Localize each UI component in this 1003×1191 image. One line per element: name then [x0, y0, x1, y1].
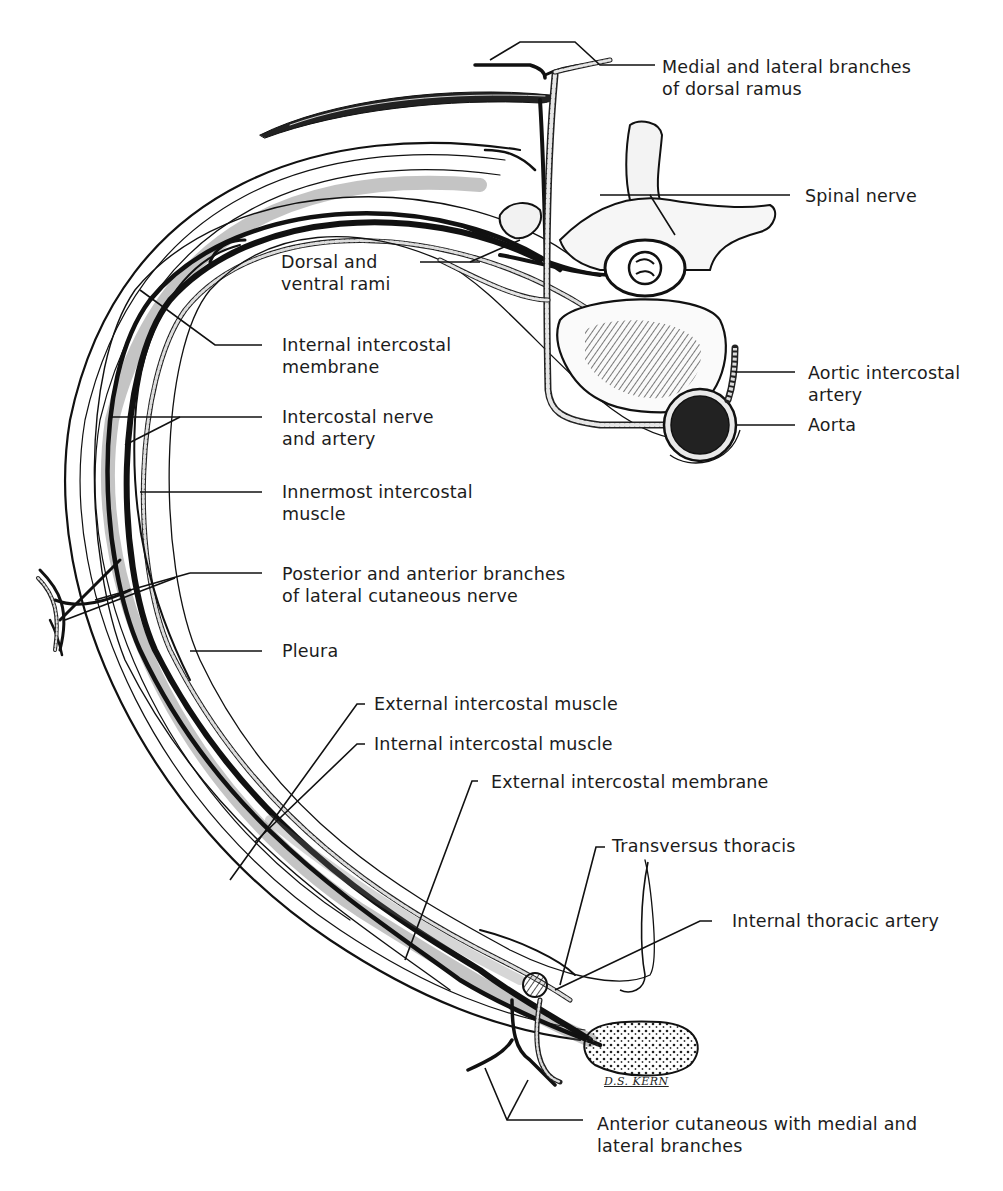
label-lateral-cutaneous-branches: Posterior and anterior branches of later… [282, 563, 565, 607]
label-pleura: Pleura [282, 640, 338, 662]
label-internal-thoracic-artery: Internal thoracic artery [732, 910, 939, 932]
label-spinal-nerve: Spinal nerve [805, 185, 917, 207]
artist-signature: D.S. KERN [604, 1075, 669, 1088]
label-dorsal-ventral-rami: Dorsal and ventral rami [281, 251, 391, 295]
label-intercostal-nerve-artery: Intercostal nerve and artery [282, 406, 434, 450]
label-medial-lateral-branches-dorsal-ramus: Medial and lateral branches of dorsal ra… [662, 56, 911, 100]
label-aortic-intercostal-artery: Aortic intercostal artery [808, 362, 960, 406]
label-internal-intercostal-membrane: Internal intercostal membrane [282, 334, 451, 378]
label-external-intercostal-muscle: External intercostal muscle [374, 693, 618, 715]
label-anterior-cutaneous: Anterior cutaneous with medial and later… [597, 1113, 917, 1157]
label-transversus-thoracis: Transversus thoracis [612, 835, 796, 857]
label-innermost-intercostal-muscle: Innermost intercostal muscle [282, 481, 473, 525]
label-external-intercostal-membrane: External intercostal membrane [491, 771, 769, 793]
internal-thoracic-artery [523, 973, 547, 997]
label-aorta: Aorta [808, 414, 856, 436]
sternum [584, 1022, 697, 1076]
label-internal-intercostal-muscle: Internal intercostal muscle [374, 733, 613, 755]
